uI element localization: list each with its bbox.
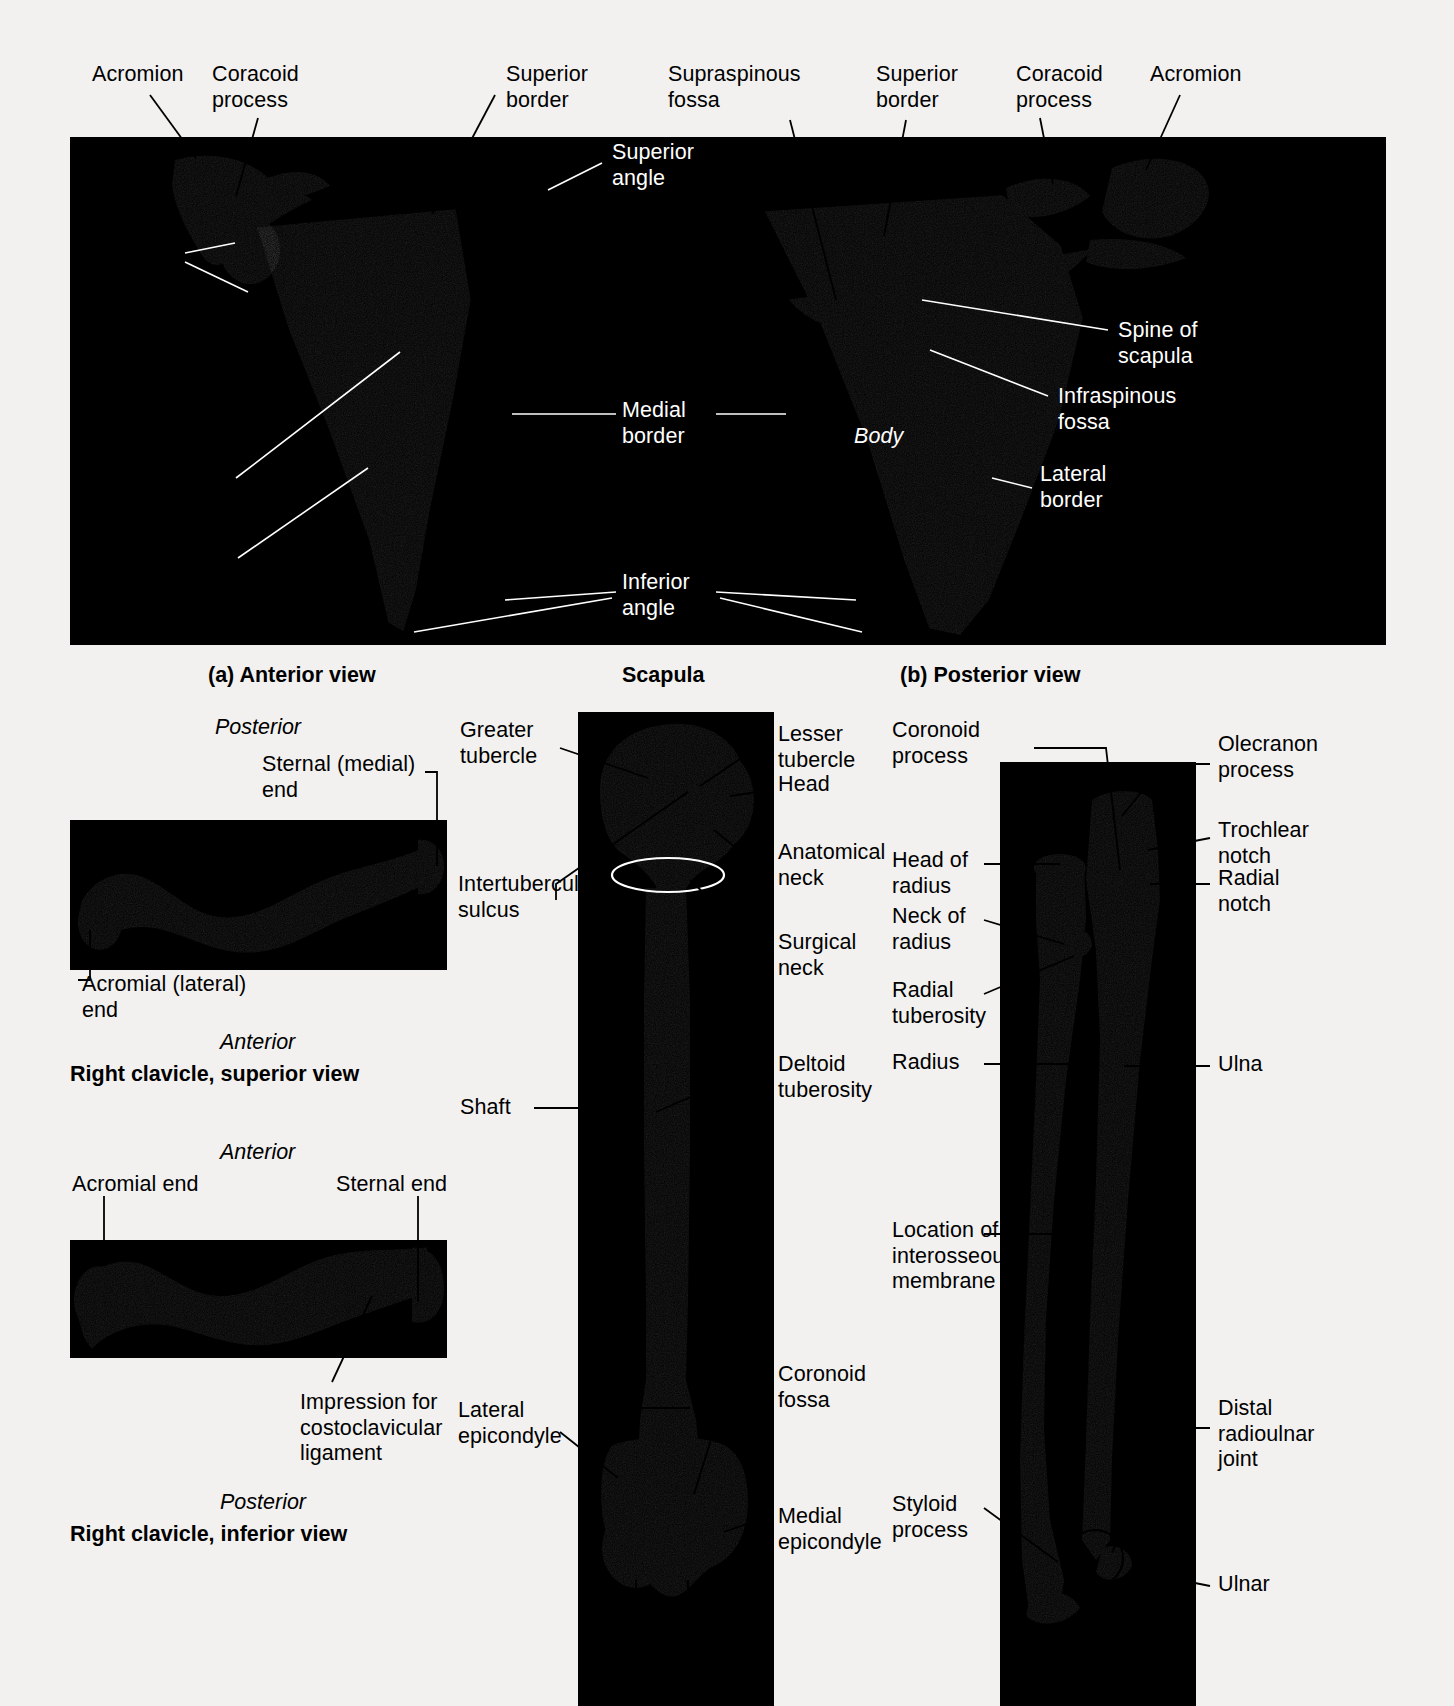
label-spine-of-scapula: Spine of scapula [1118,318,1198,369]
caption-right-clavicle-superior-view: Right clavicle, superior view [70,1062,359,1087]
label-intertubercular-sulcus: Intertubercular sulcus [458,872,598,923]
label-deltoid-tuberosity: Deltoid tuberosity [778,1052,872,1103]
label-sternal-end: Sternal end [336,1172,447,1198]
caption-anterior-view: (a) Anterior view [208,663,376,688]
label-radius: Radius [892,1050,960,1076]
orientation-posterior-superior-clavicle: Posterior [215,715,301,740]
label-location-interosseous-membrane: Location of interosseous membrane [892,1218,1015,1295]
label-neck-of-radius: Neck of radius [892,904,966,955]
humerus-photo-panel [578,712,774,1706]
label-superior-border-anterior: Superior border [506,62,588,113]
clavicle-inferior-photo-panel [70,1240,447,1358]
label-glenoid-cavity: Glenoid cavity [88,238,163,289]
label-impression-costoclavicular-ligament: Impression for costoclavicular ligament [300,1390,443,1467]
label-acromion-posterior: Acromion [1150,62,1242,88]
label-coronoid-fossa: Coronoid fossa [778,1362,866,1413]
label-styloid-process: Styloid process [892,1492,968,1543]
label-olecranon-process: Olecranon process [1218,732,1318,783]
label-ulnar: Ulnar [1218,1572,1270,1598]
caption-right-clavicle-inferior-view: Right clavicle, inferior view [70,1522,347,1547]
label-lateral-epicondyle: Lateral epicondyle [458,1398,562,1449]
label-surgical-neck: Surgical neck [778,930,856,981]
label-radial-tuberosity: Radial tuberosity [892,978,986,1029]
label-infraspinous-fossa: Infraspinous fossa [1058,384,1176,435]
label-body: Body [854,424,903,450]
label-lateral-border-posterior: Lateral border [1040,462,1106,513]
label-supraspinous-fossa: Supraspinous fossa [668,62,801,113]
label-shaft: Shaft [460,1095,511,1121]
orientation-anterior-superior-clavicle: Anterior [220,1030,295,1055]
label-subscapular-fossa: Subscapular fossa [88,462,209,513]
label-acromion-anterior: Acromion [92,62,184,88]
label-anatomical-neck: Anatomical neck [778,840,885,891]
label-lateral-border-anterior: Lateral border [120,545,186,596]
label-trochlear-notch: Trochlear notch [1218,818,1309,869]
orientation-posterior-inferior-clavicle: Posterior [220,1490,306,1515]
scapula-photo-panel [70,137,1386,645]
label-distal-radioulnar-joint: Distal radioulnar joint [1218,1396,1315,1473]
label-coracoid-process-posterior: Coracoid process [1016,62,1103,113]
label-radial-notch: Radial notch [1218,866,1280,917]
label-greater-tubercle: Greater tubercle [460,718,537,769]
figure-page: Acromion Coracoid process Glenoid cavity… [0,0,1454,1706]
radius-ulna-photo-panel [1000,762,1196,1706]
label-medial-epicondyle: Medial epicondyle [778,1504,882,1555]
clavicle-superior-photo-panel [70,820,447,970]
label-lesser-tubercle: Lesser tubercle [778,722,855,773]
label-coronoid-process: Coronoid process [892,718,980,769]
label-superior-angle: Superior angle [612,140,694,191]
label-medial-border: Medial border [622,398,686,449]
label-acromial-end: Acromial end [72,1172,199,1198]
caption-scapula: Scapula [622,663,704,688]
label-acromial-lateral-end: Acromial (lateral) end [82,972,246,1023]
label-superior-border-posterior: Superior border [876,62,958,113]
label-coracoid-process-anterior: Coracoid process [212,62,299,113]
label-sternal-medial-end: Sternal (medial) end [262,752,415,803]
label-ulna: Ulna [1218,1052,1263,1078]
label-head-of-radius: Head of radius [892,848,968,899]
orientation-anterior-inferior-clavicle: Anterior [220,1140,295,1165]
caption-posterior-view: (b) Posterior view [900,663,1080,688]
label-inferior-angle: Inferior angle [622,570,690,621]
label-head-of-humerus: Head [778,772,830,798]
